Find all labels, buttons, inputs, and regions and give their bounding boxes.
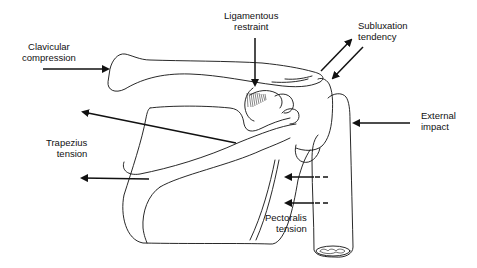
trapezius-tension-line2: tension xyxy=(46,148,87,159)
scapula-spine-lower xyxy=(123,124,296,174)
shoulder-diagram: Clavicular compression Ligamentous restr… xyxy=(0,0,477,268)
external-impact-line1: External xyxy=(421,110,456,121)
trapezius-lower-arrow xyxy=(82,178,149,179)
ligamentous-restraint-line2: restraint xyxy=(224,21,278,32)
pectoralis-tension-line2: tension xyxy=(265,223,307,234)
subluxation-tendency-line1: Subluxation xyxy=(358,20,408,31)
pectoralis-tension-line1: Pectoralis xyxy=(265,212,307,223)
trapezius-upper-arrow xyxy=(83,112,236,143)
clavicular-compression-line1: Clavicular xyxy=(22,41,76,52)
humerus-marrow xyxy=(320,249,345,254)
humerus-outline xyxy=(312,94,353,257)
glenoid-bubble-1 xyxy=(275,94,293,113)
label-external-impact: External impact xyxy=(421,110,456,132)
scapula-spine-upper xyxy=(150,106,290,131)
ligamentous-restraint-line1: Ligamentous xyxy=(224,10,278,21)
external-impact-line2: impact xyxy=(421,121,456,132)
label-ligamentous-restraint: Ligamentous restraint xyxy=(224,10,278,32)
subluxation-down-arrow xyxy=(333,47,363,78)
scapula-medial-border xyxy=(143,187,160,243)
acromion-outline xyxy=(296,78,333,150)
subluxation-up-arrow xyxy=(321,40,351,71)
trapezius-tension-line1: Trapezius xyxy=(46,137,87,148)
label-subluxation-tendency: Subluxation tendency xyxy=(358,20,408,42)
label-trapezius-tension: Trapezius tension xyxy=(46,137,87,159)
clavicle-outline xyxy=(108,54,323,91)
label-clavicular-compression: Clavicular compression xyxy=(22,41,76,63)
clavicular-compression-line2: compression xyxy=(22,52,76,63)
label-pectoralis-tension: Pectoralis tension xyxy=(265,212,307,234)
subluxation-tendency-line2: tendency xyxy=(358,31,408,42)
